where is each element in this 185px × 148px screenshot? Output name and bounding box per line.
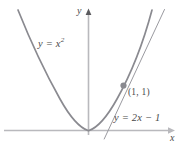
y-axis-arrow-icon: [86, 9, 92, 16]
parabola-equation-text: y = x: [38, 38, 61, 49]
point-coordinate-label: (1, 1): [128, 88, 150, 98]
tangency-point-marker: [120, 82, 126, 88]
y-axis-label: y: [77, 6, 82, 16]
figure-canvas: [0, 0, 185, 148]
tangent-equation-label: y = 2x − 1: [114, 113, 161, 124]
x-axis-label: x: [170, 133, 175, 143]
parabola-exponent: 2: [61, 36, 65, 44]
parabola-equation-label: y = x2: [38, 37, 64, 49]
math-figure: y = x2 y = 2x − 1 (1, 1) y x: [0, 0, 185, 148]
y-axis: [86, 9, 92, 136]
